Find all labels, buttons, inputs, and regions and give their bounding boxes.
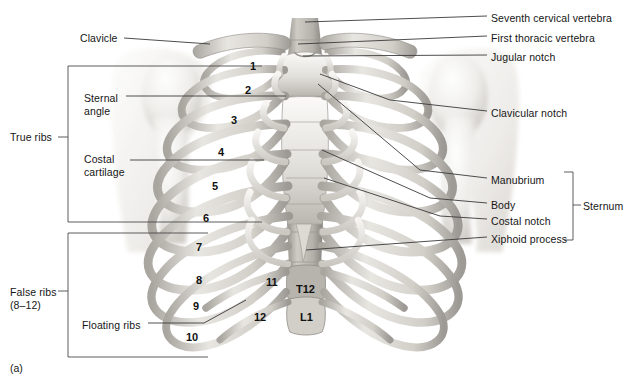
rib-number-8: 8 bbox=[196, 274, 202, 286]
label-first-thoracic-vertebra: First thoracic vertebra bbox=[491, 32, 595, 45]
vertebra-marker-l1: L1 bbox=[300, 311, 313, 323]
label-seventh-cervical-vertebra: Seventh cervical vertebra bbox=[491, 12, 612, 25]
rib-number-4: 4 bbox=[218, 146, 224, 158]
shoulder-girdle-left bbox=[111, 48, 211, 252]
rib-number-12: 12 bbox=[254, 311, 266, 323]
rib-number-2: 2 bbox=[245, 84, 251, 96]
rib-number-6: 6 bbox=[203, 212, 209, 224]
leader-seventh-cervical-vertebra bbox=[305, 16, 487, 22]
label-clavicle: Clavicle bbox=[80, 32, 118, 45]
label-sternum: Sternum bbox=[583, 200, 623, 213]
rib-number-7: 7 bbox=[196, 241, 202, 253]
label-false-ribs: False ribs (8–12) bbox=[10, 286, 57, 311]
label-floating-ribs: Floating ribs bbox=[82, 319, 141, 332]
rib-number-5: 5 bbox=[212, 180, 218, 192]
label-xiphoid-process: Xiphoid process bbox=[491, 233, 567, 246]
rib-number-3: 3 bbox=[231, 114, 237, 126]
rib-number-10: 10 bbox=[186, 331, 198, 343]
label-costal-cartilage: Costal cartilage bbox=[84, 153, 125, 178]
rib-number-9: 9 bbox=[193, 300, 199, 312]
leader-clavicle bbox=[124, 38, 210, 44]
label-manubrium: Manubrium bbox=[491, 174, 544, 187]
label-body: Body bbox=[491, 199, 515, 212]
rib-number-11: 11 bbox=[266, 276, 278, 288]
label-costal-notch: Costal notch bbox=[491, 215, 551, 228]
bracket-sternum bbox=[564, 172, 581, 240]
label-clavicular-notch: Clavicular notch bbox=[491, 107, 567, 120]
label-jugular-notch: Jugular notch bbox=[491, 51, 555, 64]
rib-number-1: 1 bbox=[250, 60, 256, 72]
vertebra-marker-t12: T12 bbox=[296, 283, 315, 295]
thoracic-cage-figure: Clavicle Sternal angle True ribs Costal … bbox=[0, 0, 630, 384]
figure-caption: (a) bbox=[10, 362, 23, 374]
label-true-ribs: True ribs bbox=[10, 131, 52, 144]
label-sternal-angle: Sternal angle bbox=[84, 92, 118, 117]
